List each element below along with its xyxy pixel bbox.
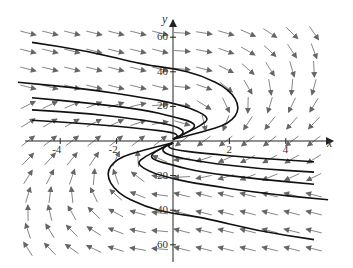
slope-arrow bbox=[285, 174, 300, 181]
slope-arrow bbox=[306, 211, 322, 215]
slope-arrow bbox=[310, 98, 318, 112]
slope-arrow bbox=[244, 116, 253, 129]
slope-arrow bbox=[306, 247, 322, 251]
slope-arrow bbox=[196, 229, 212, 233]
slope-arrow bbox=[284, 211, 300, 215]
slope-arrow bbox=[108, 247, 123, 252]
slope-arrow bbox=[91, 188, 98, 202]
slope-arrow bbox=[311, 44, 317, 59]
x-tick-label: 4 bbox=[283, 144, 289, 155]
y-tick-label: 40 bbox=[157, 204, 168, 215]
slope-arrow bbox=[284, 229, 300, 233]
slope-arrow bbox=[174, 32, 190, 33]
slope-arrow bbox=[42, 31, 58, 35]
slope-arrow bbox=[309, 26, 318, 39]
slope-arrow bbox=[285, 155, 299, 163]
slope-arrow bbox=[288, 44, 297, 57]
y-tick-label: 60 bbox=[157, 239, 168, 250]
slope-arrow bbox=[152, 194, 168, 196]
slope-arrow bbox=[307, 173, 321, 180]
slope-arrow bbox=[196, 67, 212, 71]
slope-arrow bbox=[218, 48, 233, 53]
slope-arrow bbox=[64, 31, 80, 35]
slope-arrow bbox=[196, 49, 212, 52]
slope-arrow bbox=[20, 49, 36, 53]
slope-arrow bbox=[86, 67, 102, 71]
slope-arrow bbox=[130, 103, 146, 107]
slope-arrow bbox=[290, 61, 294, 76]
slope-arrow bbox=[218, 229, 234, 233]
slope-arrow bbox=[46, 224, 54, 238]
slope-arrow bbox=[262, 247, 278, 251]
slope-arrow bbox=[26, 187, 31, 202]
x-tick-label: -4 bbox=[52, 144, 61, 155]
slope-arrow bbox=[67, 153, 77, 165]
slope-arrow bbox=[241, 47, 255, 55]
solution-curve bbox=[32, 120, 177, 139]
slope-arrow bbox=[263, 29, 276, 38]
slope-arrow bbox=[20, 67, 36, 71]
slope-arrow bbox=[88, 207, 100, 218]
slope-arrow bbox=[218, 31, 233, 35]
slope-arrow bbox=[174, 229, 190, 233]
slope-arrow bbox=[89, 152, 98, 165]
slope-arrow bbox=[130, 211, 145, 215]
slope-arrow bbox=[42, 49, 58, 53]
slope-arrow bbox=[86, 85, 102, 89]
y-tick-label: 20 bbox=[157, 100, 168, 111]
slope-arrow bbox=[264, 46, 276, 57]
slope-arrow bbox=[196, 84, 211, 89]
slope-arrow bbox=[196, 32, 212, 35]
slope-arrow bbox=[108, 49, 124, 53]
slope-arrow bbox=[131, 192, 146, 198]
slope-arrow bbox=[219, 66, 233, 73]
slope-arrow bbox=[284, 247, 300, 251]
y-tick-label: 60 bbox=[157, 31, 168, 42]
slope-arrow bbox=[26, 223, 31, 238]
slope-arrow bbox=[152, 230, 168, 231]
slope-arrow bbox=[196, 193, 212, 197]
slope-arrow bbox=[266, 62, 275, 76]
slope-arrow bbox=[87, 246, 101, 253]
slope-arrow bbox=[22, 153, 33, 165]
slope-arrow bbox=[69, 169, 74, 184]
slope-arrow bbox=[113, 169, 118, 184]
slope-arrow bbox=[219, 156, 234, 162]
solution-curve bbox=[32, 42, 238, 139]
slope-arrow bbox=[196, 211, 212, 215]
slope-arrow bbox=[24, 170, 33, 184]
x-axis-label: x bbox=[327, 136, 332, 151]
slope-arrow bbox=[269, 79, 272, 95]
slope-arrow bbox=[49, 187, 51, 203]
slope-arrow bbox=[66, 225, 77, 236]
slope-arrow bbox=[242, 64, 254, 74]
slope-arrow bbox=[87, 227, 101, 236]
slope-arrow bbox=[174, 177, 190, 178]
slope-arrow bbox=[109, 228, 124, 234]
slope-arrow bbox=[130, 248, 146, 251]
slope-arrow bbox=[286, 27, 297, 38]
slope-arrow bbox=[46, 170, 53, 184]
slope-arrow bbox=[43, 119, 57, 127]
slope-arrow bbox=[138, 151, 139, 167]
slope-arrow bbox=[312, 79, 316, 94]
solution-curve bbox=[108, 143, 314, 240]
slope-arrow bbox=[48, 205, 52, 221]
slope-arrow bbox=[314, 61, 315, 77]
slope-arrow bbox=[152, 49, 168, 53]
slope-arrow bbox=[42, 67, 58, 71]
slope-arrow bbox=[24, 242, 33, 255]
slope-arrow bbox=[130, 85, 146, 89]
slope-arrow bbox=[130, 229, 146, 232]
slope-arrow bbox=[68, 206, 76, 220]
slope-arrow bbox=[108, 85, 124, 89]
slope-arrow bbox=[44, 243, 55, 255]
slope-arrow bbox=[86, 31, 102, 35]
slope-arrow bbox=[196, 175, 212, 178]
slope-arrow bbox=[174, 193, 190, 197]
slope-arrow bbox=[288, 98, 295, 112]
slope-arrow bbox=[20, 31, 36, 35]
x-tick-label: -2 bbox=[109, 144, 118, 155]
slope-arrow bbox=[240, 211, 256, 215]
slope-arrow bbox=[174, 50, 190, 51]
